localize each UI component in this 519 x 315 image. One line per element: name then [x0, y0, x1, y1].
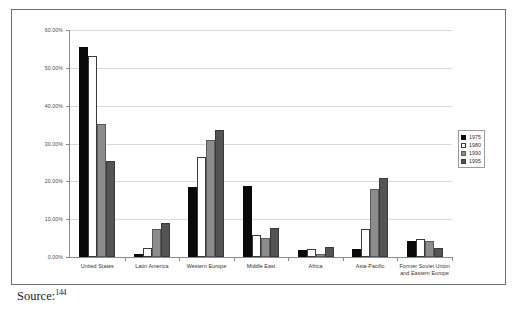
- y-tick-label: 20.00%: [45, 178, 63, 184]
- bar-group: [125, 30, 180, 257]
- bar-1995: [434, 248, 443, 257]
- dark-gray-swatch: [461, 159, 466, 164]
- bar-1995: [270, 228, 279, 257]
- bar-1990: [152, 229, 161, 257]
- bar-1995: [215, 130, 224, 257]
- bar-1980: [416, 239, 425, 257]
- bar-1975: [243, 186, 252, 257]
- x-tick-mark: [288, 257, 289, 261]
- source-label: Source:: [17, 289, 55, 303]
- bar-1980: [252, 235, 261, 257]
- bar-1995: [379, 178, 388, 257]
- black-swatch: [461, 135, 466, 140]
- bar-group: [234, 30, 289, 257]
- category-label: Western Europe: [179, 263, 234, 270]
- bar-1975: [407, 241, 416, 257]
- y-tick-mark: [66, 257, 70, 258]
- white-swatch: [461, 143, 466, 148]
- x-tick-mark: [343, 257, 344, 261]
- legend-label: 1980: [469, 142, 481, 148]
- bar-group: [343, 30, 398, 257]
- bar-1980: [361, 229, 370, 257]
- bar-1990: [425, 241, 434, 257]
- source-footnote-marker: 144: [55, 288, 66, 297]
- plot-area: 0.00%10.00%20.00%30.00%40.00%50.00%60.00…: [70, 30, 452, 257]
- x-tick-mark: [452, 257, 453, 261]
- bar-1995: [161, 223, 170, 257]
- legend-item: 1990: [461, 149, 481, 157]
- chart-legend: 1975198019901995: [458, 130, 485, 168]
- gridline: [70, 257, 452, 258]
- bar-group: [288, 30, 343, 257]
- legend-label: 1990: [469, 150, 481, 156]
- bar-1990: [206, 140, 215, 257]
- y-tick-label: 40.00%: [45, 103, 63, 109]
- legend-label: 1975: [469, 134, 481, 140]
- bar-1975: [188, 187, 197, 257]
- source-caption: Source:144: [17, 288, 66, 304]
- bar-1990: [370, 189, 379, 257]
- bar-1980: [307, 249, 316, 257]
- y-tick-label: 0.00%: [48, 254, 63, 260]
- figure-frame: 0.00%10.00%20.00%30.00%40.00%50.00%60.00…: [11, 9, 506, 285]
- x-tick-mark: [234, 257, 235, 261]
- legend-item: 1980: [461, 141, 481, 149]
- legend-label: 1995: [469, 158, 481, 164]
- bar-1990: [97, 124, 106, 257]
- gray-swatch: [461, 151, 466, 156]
- category-label: Middle East: [234, 263, 289, 270]
- bar-1975: [352, 249, 361, 257]
- bar-1990: [316, 254, 325, 257]
- x-tick-mark: [179, 257, 180, 261]
- x-tick-mark: [397, 257, 398, 261]
- x-tick-mark: [125, 257, 126, 261]
- bar-1995: [106, 161, 115, 257]
- category-label: Africa: [288, 263, 343, 270]
- legend-item: 1995: [461, 157, 481, 165]
- bar-group: [179, 30, 234, 257]
- category-label: Former Soviet Union and Eastern Europe: [397, 263, 452, 278]
- category-label: Asia-Pacific: [343, 263, 398, 270]
- y-tick-label: 30.00%: [45, 141, 63, 147]
- legend-item: 1975: [461, 133, 481, 141]
- bar-1975: [298, 250, 307, 257]
- bar-1980: [143, 248, 152, 257]
- bar-1980: [197, 157, 206, 257]
- y-tick-label: 10.00%: [45, 216, 63, 222]
- bar-group: [70, 30, 125, 257]
- bar-1975: [79, 47, 88, 257]
- category-label: United States: [70, 263, 125, 270]
- bar-chart: 0.00%10.00%20.00%30.00%40.00%50.00%60.00…: [12, 10, 505, 284]
- y-tick-label: 60.00%: [45, 27, 63, 33]
- category-label: Latin America: [125, 263, 180, 270]
- bar-group: [397, 30, 452, 257]
- bar-1975: [134, 254, 143, 257]
- bar-1990: [261, 238, 270, 257]
- bar-1980: [88, 56, 97, 257]
- bar-1995: [325, 247, 334, 257]
- y-tick-label: 50.00%: [45, 65, 63, 71]
